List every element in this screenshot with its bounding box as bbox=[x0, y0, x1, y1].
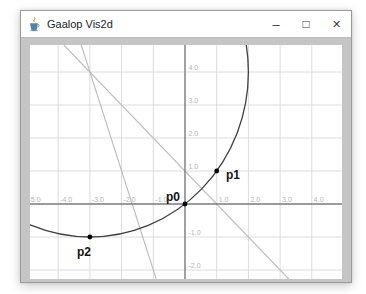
y-tick-labels: 4.0 3.0 2.0 1.0 -1.0 -2.0 bbox=[189, 64, 201, 269]
window-controls: – □ ✕ bbox=[261, 11, 351, 37]
window-content-frame: -5.0 -4.0 -3.0 -2.0 -1.0 1.0 2.0 3.0 4.0… bbox=[21, 38, 351, 282]
x-tick: 4.0 bbox=[314, 196, 324, 203]
point-label-p2: p2 bbox=[77, 245, 91, 259]
x-tick: -3.0 bbox=[92, 196, 104, 203]
x-tick: 3.0 bbox=[282, 196, 292, 203]
close-button[interactable]: ✕ bbox=[321, 11, 351, 37]
point-p0 bbox=[183, 202, 188, 207]
app-window: Gaalop Vis2d – □ ✕ bbox=[20, 10, 352, 283]
bisector-line-p0p1 bbox=[64, 45, 289, 279]
window-title: Gaalop Vis2d bbox=[47, 18, 113, 30]
y-tick: 4.0 bbox=[189, 64, 199, 71]
point-labels: p0 p1 p2 bbox=[77, 168, 240, 259]
title-bar[interactable]: Gaalop Vis2d – □ ✕ bbox=[21, 11, 351, 38]
point-label-p0: p0 bbox=[166, 190, 180, 204]
point-label-p1: p1 bbox=[226, 168, 240, 182]
bisector-lines bbox=[64, 45, 289, 279]
y-tick: 1.0 bbox=[189, 163, 199, 170]
y-tick: -2.0 bbox=[189, 262, 201, 269]
circle-curve bbox=[30, 45, 248, 237]
java-app-icon bbox=[27, 16, 41, 32]
axes bbox=[30, 45, 342, 279]
maximize-button[interactable]: □ bbox=[291, 11, 321, 37]
vis2d-canvas[interactable]: -5.0 -4.0 -3.0 -2.0 -1.0 1.0 2.0 3.0 4.0… bbox=[30, 45, 342, 279]
y-tick: 2.0 bbox=[189, 130, 199, 137]
x-tick: -4.0 bbox=[60, 196, 72, 203]
minimize-button[interactable]: – bbox=[261, 11, 291, 37]
bisector-line-p0p2 bbox=[81, 45, 156, 279]
x-tick: 1.0 bbox=[219, 196, 229, 203]
plot-svg: -5.0 -4.0 -3.0 -2.0 -1.0 1.0 2.0 3.0 4.0… bbox=[30, 45, 342, 279]
y-tick: 3.0 bbox=[189, 97, 199, 104]
point-p2 bbox=[88, 235, 93, 240]
x-tick: 2.0 bbox=[250, 196, 260, 203]
point-p1 bbox=[214, 169, 219, 174]
grid-lines bbox=[30, 45, 342, 279]
x-tick: -5.0 bbox=[30, 196, 41, 203]
y-tick: -1.0 bbox=[189, 229, 201, 236]
x-tick: -2.0 bbox=[124, 196, 136, 203]
